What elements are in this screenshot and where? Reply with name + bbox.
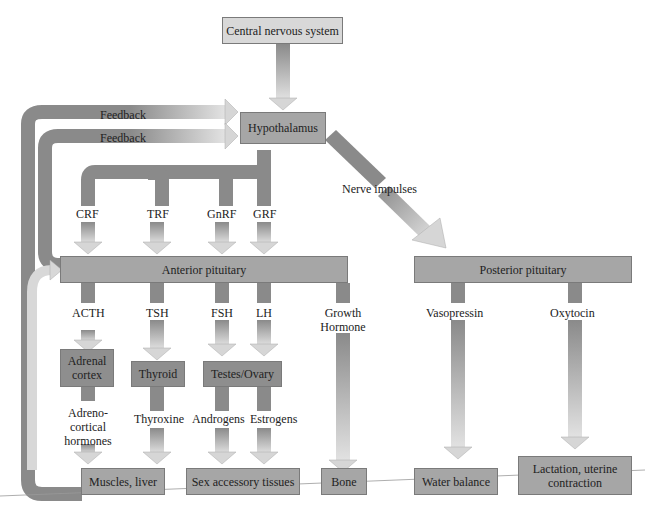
node-lactation: Lactation, uterine contraction [518, 456, 632, 495]
node-hypothalamus: Hypothalamus [240, 112, 326, 144]
label-thyroxine: Thyroxine [134, 412, 184, 426]
node-cns: Central nervous system [222, 17, 343, 44]
node-thyroid: Thyroid [131, 361, 185, 387]
label-oxytocin: Oxytocin [550, 306, 595, 320]
node-testes-ovary: Testes/Ovary [203, 361, 282, 387]
node-adrenal-cortex: Adrenal cortex [60, 349, 114, 387]
label-trf: TRF [147, 207, 169, 221]
label-adrenocortical: Adreno- cortical hormones [60, 406, 116, 448]
node-water-balance: Water balance [414, 468, 498, 495]
label-lh: LH [256, 306, 272, 320]
node-bone: Bone [321, 468, 367, 495]
label-crf: CRF [76, 207, 99, 221]
label-grf: GRF [253, 207, 276, 221]
label-growth-hormone: Growth Hormone [319, 306, 367, 334]
node-posterior-pituitary: Posterior pituitary [414, 256, 632, 283]
label-fsh: FSH [211, 306, 233, 320]
label-estrogens: Estrogens [250, 412, 297, 426]
label-acth: ACTH [72, 306, 105, 320]
node-anterior-pituitary: Anterior pituitary [60, 256, 348, 283]
label-feedback-1: Feedback [100, 108, 146, 122]
rf-arrows [74, 222, 278, 254]
feedback-arrowhead-1 [225, 99, 238, 125]
feedback-arrowhead-2 [225, 123, 238, 149]
label-vasopressin: Vasopressin [426, 306, 483, 320]
label-gnrf: GnRF [207, 207, 236, 221]
node-muscles-liver: Muscles, liver [81, 468, 165, 495]
node-sex-accessory: Sex accessory tissues [186, 468, 300, 495]
label-nerve-impulses: Nerve impulses [342, 182, 417, 196]
label-tsh: TSH [146, 306, 169, 320]
label-androgens: Androgens [192, 412, 245, 426]
label-feedback-2: Feedback [100, 131, 146, 145]
